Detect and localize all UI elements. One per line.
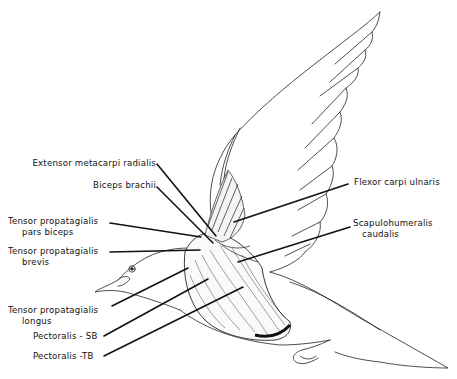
foot [293,340,330,364]
label-line-2: longus [8,316,98,327]
label-line-1: Tensor propatagialis [8,216,98,227]
anatomical-diagram: Extensor metacarpi radialis Biceps brach… [0,0,457,379]
label-line-1: Tensor propatagialis [8,305,98,316]
label-line-2: brevis [8,257,98,268]
label-biceps-brachii: Biceps brachii [0,180,156,191]
label-tensor-propatagialis-longus: Tensor propatagialis longus [8,305,98,327]
label-line-1: Tensor propatagialis [8,246,98,257]
label-line-1: Scapulohumeralis [353,218,433,229]
label-tensor-propatagialis-pars-biceps: Tensor propatagialis pars biceps [8,216,98,238]
label-pectoralis-sb: Pectoralis - SB [33,331,97,342]
label-flexor-carpi-ulnaris: Flexor carpi ulnaris [354,177,440,188]
leader-tensor-pars-biceps [110,223,201,237]
leader-pectoralis-sb [104,279,208,336]
leader-extensor-metacarpi-radialis [157,164,216,236]
label-tensor-propatagialis-brevis: Tensor propatagialis brevis [8,246,98,268]
label-line-2: caudalis [353,229,433,240]
label-extensor-metacarpi-radialis: Extensor metacarpi radialis [0,158,156,169]
leader-flexor-carpi-ulnaris [234,184,348,222]
label-line-2: pars biceps [8,227,98,238]
label-scapulohumeralis-caudalis: Scapulohumeralis caudalis [353,218,433,240]
leader-scapulohumeralis-caudalis [238,227,350,262]
label-pectoralis-tb: Pectoralis -TB [33,351,94,362]
back-tail [270,272,448,368]
